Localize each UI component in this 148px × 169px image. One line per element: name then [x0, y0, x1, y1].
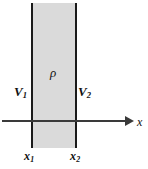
charge-density-label: ρ	[50, 66, 56, 79]
boundary-plane-right	[75, 3, 77, 148]
boundary-label-x2-subscript: 2	[76, 155, 80, 164]
boundary-label-x1: x1	[24, 150, 34, 162]
potential-label-v1-subscript: 1	[23, 90, 27, 100]
x-axis-line	[2, 120, 131, 122]
potential-label-v2: V2	[78, 85, 91, 98]
boundary-label-x1-subscript: 1	[30, 155, 34, 164]
x-axis-label: x	[137, 116, 142, 128]
x-axis-arrowhead-icon	[125, 116, 134, 126]
boundary-label-x2: x2	[70, 150, 80, 162]
potential-label-v1-text: V	[14, 84, 23, 99]
potential-label-v1: V1	[14, 85, 27, 98]
physics-diagram: V1 V2 ρ x1 x2 x	[0, 0, 148, 169]
boundary-plane-left	[31, 3, 33, 148]
potential-label-v2-text: V	[78, 84, 87, 99]
potential-label-v2-subscript: 2	[87, 90, 91, 100]
